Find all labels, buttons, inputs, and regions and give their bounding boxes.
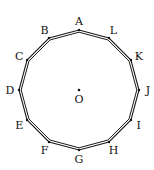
vertex-j (138, 89, 140, 91)
vertex-label-b: B (40, 24, 48, 37)
vertex-label-k: K (135, 50, 144, 63)
vertex-a (78, 29, 80, 31)
vertex-d (18, 89, 20, 91)
vertex-k (130, 59, 132, 61)
vertex-label-j: J (145, 84, 150, 97)
vertex-g (78, 149, 80, 151)
vertex-label-e: E (15, 119, 23, 132)
vertex-label-f: F (41, 144, 49, 157)
vertex-label-h: H (109, 144, 119, 157)
vertex-i (130, 119, 132, 121)
center-label: O (74, 93, 83, 106)
dodecagon-diagram: ABCDEFGHIJKL O (0, 0, 154, 170)
vertex-label-d: D (6, 84, 15, 97)
vertex-label-a: A (74, 15, 84, 28)
vertex-label-g: G (75, 153, 84, 166)
vertex-label-i: I (137, 119, 141, 132)
vertex-label-c: C (15, 50, 23, 63)
vertex-e (26, 119, 28, 121)
vertex-c (26, 59, 28, 61)
center-point (78, 89, 81, 92)
vertex-label-l: L (110, 24, 118, 37)
